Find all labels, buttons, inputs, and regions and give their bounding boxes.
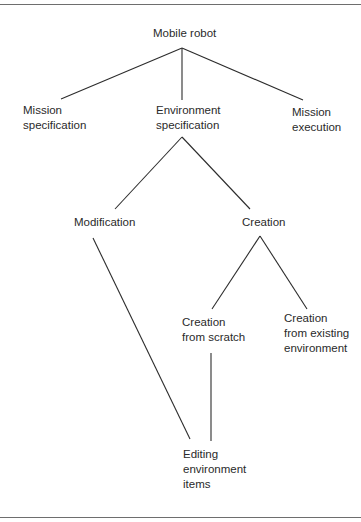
node-creation-from-existing: Creation from existing environment [284,311,349,356]
node-creation-from-scratch: Creation from scratch [182,315,245,345]
node-creation: Creation [242,215,285,230]
node-label-line: Mission [23,103,86,118]
node-modification: Modification [74,215,135,230]
node-label-line: Creation [284,311,349,326]
node-editing-environment-items: Editing environment items [183,447,246,492]
node-mission-execution: Mission execution [292,105,341,135]
node-environment-specification: Environment specification [156,103,221,133]
node-label-line: Editing [183,447,246,462]
node-label-line: Mobile robot [153,26,216,41]
edge-modification-editing [93,238,190,439]
node-label-line: Modification [74,215,135,230]
node-label-line: Environment [156,103,221,118]
node-label-line: from existing [284,326,349,341]
node-label-line: environment [284,341,349,356]
node-mission-specification: Mission specification [23,103,86,133]
node-label-line: Creation [242,215,285,230]
node-label-line: environment [183,462,246,477]
node-label-line: execution [292,120,341,135]
node-label-line: from scratch [182,330,245,345]
edge-root-mission-spec [61,48,182,99]
edge-env-spec-modification [115,137,182,209]
node-mobile-robot: Mobile robot [153,26,216,41]
node-label-line: Mission [292,105,341,120]
edge-root-mission-exec [182,48,303,100]
node-label-line: specification [23,118,86,133]
edge-creation-existing [260,236,307,309]
edge-creation-scratch [212,236,260,309]
edge-env-spec-creation [182,137,250,209]
node-label-line: Creation [182,315,245,330]
node-label-line: items [183,477,246,492]
tree-edges [0,0,361,522]
node-label-line: specification [156,118,221,133]
